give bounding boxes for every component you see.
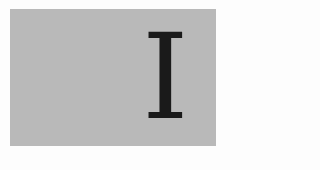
part-numeral: I [142,18,182,136]
